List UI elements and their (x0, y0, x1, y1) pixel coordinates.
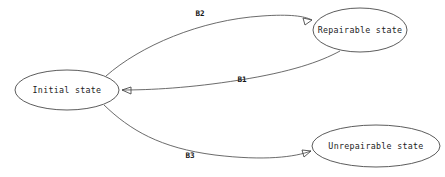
edges-group: B2 B1 B3 (104, 9, 340, 160)
node-repairable-state[interactable]: Repairable state (313, 8, 407, 52)
edge-b1-arrowhead (122, 87, 131, 94)
edge-b3-label: B3 (185, 151, 195, 160)
state-diagram: B2 B1 B3 Initial state Repairable state (0, 0, 445, 177)
node-unrepairable-state[interactable]: Unrepairable state (312, 125, 440, 167)
edge-b1[interactable]: B1 (122, 51, 340, 94)
nodes-group: Initial state Repairable state Unrepaira… (15, 8, 440, 167)
edge-b2[interactable]: B2 (106, 9, 312, 76)
edge-b1-label: B1 (237, 75, 247, 84)
node-initial-state[interactable]: Initial state (15, 70, 119, 110)
edge-b2-path (106, 15, 312, 76)
node-unrepairable-state-label: Unrepairable state (328, 141, 423, 151)
edge-b1-path (122, 51, 340, 90)
edge-b3-arrowhead (302, 150, 311, 157)
edge-b2-label: B2 (195, 9, 204, 18)
node-repairable-state-label: Repairable state (318, 25, 403, 35)
node-initial-state-label: Initial state (33, 85, 102, 95)
diagram-canvas: B2 B1 B3 Initial state Repairable state (0, 0, 445, 177)
edge-b3[interactable]: B3 (104, 105, 311, 160)
edge-b3-path (104, 105, 311, 158)
